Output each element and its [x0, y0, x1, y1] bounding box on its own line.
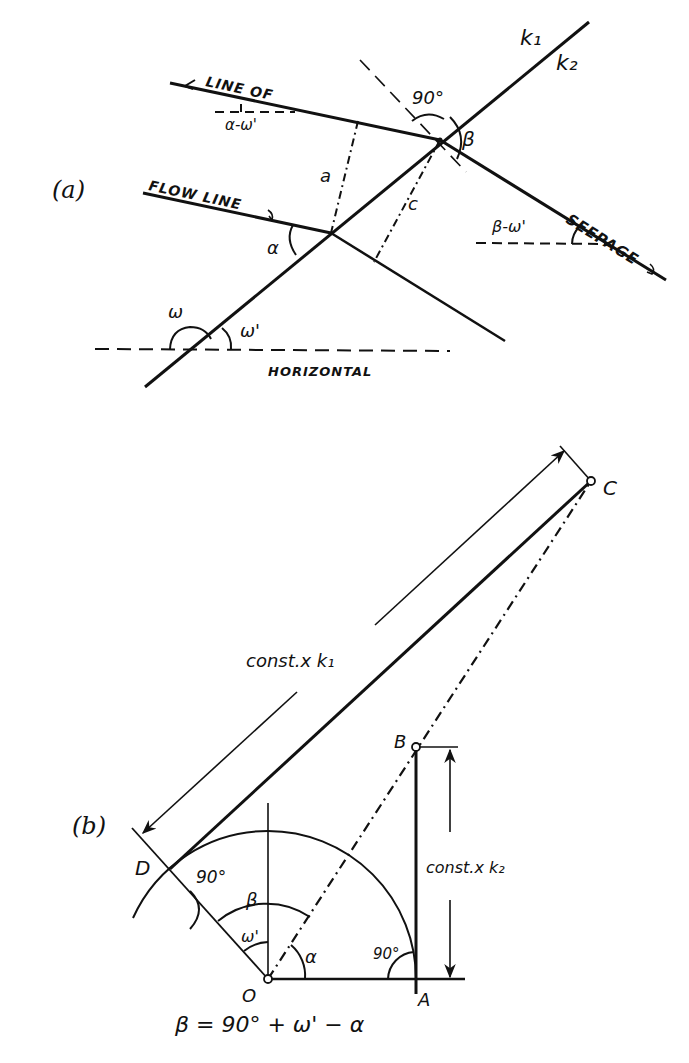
omega-label: ω — [168, 301, 183, 322]
panel-b-label: (b) — [72, 812, 106, 840]
distance-c-line — [374, 140, 440, 262]
horizontal-line — [95, 349, 450, 351]
refracted-line-lower — [331, 233, 505, 341]
refraction-diagram: (a) HORIZONTAL k₁ k₂ LINE OF α-ω' FLOW L… — [0, 0, 689, 1063]
angle-arc-omega-prime — [222, 328, 231, 349]
k2-label: k₂ — [556, 50, 578, 75]
alpha-label: α — [267, 237, 279, 258]
angle-90-label: 90° — [412, 87, 444, 108]
flow-line-label: FLOW LINE — [147, 177, 243, 212]
angle-arc-90 — [412, 114, 444, 121]
angle-arc-beta — [218, 904, 310, 921]
panel-a: (a) HORIZONTAL k₁ k₂ LINE OF α-ω' FLOW L… — [52, 22, 666, 387]
a-label: a — [320, 165, 331, 186]
angle-arc-beta — [450, 117, 461, 159]
alpha-minus-omega-label: α-ω' — [225, 116, 257, 134]
angle-90-A-label: 90° — [373, 945, 400, 963]
angle-arc-alpha — [291, 945, 305, 979]
dimension-arrow-k1-down — [143, 692, 297, 833]
beta-minus-omega-label: β-ω' — [491, 217, 526, 236]
angle-arc-alpha — [290, 225, 296, 255]
label-O: O — [242, 985, 256, 1006]
dimension-arrow-k1-up — [375, 451, 564, 625]
c-label: c — [408, 193, 418, 214]
omega-prime-label: ω' — [240, 320, 260, 341]
seepage-label: SEEPAGE — [563, 210, 642, 269]
label-C: C — [603, 476, 617, 500]
beta-formula: β = 90° + ω' − α — [174, 1012, 365, 1037]
panel-b: (b) const.x k₂ const.x k₁ 90° β ω' — [72, 446, 617, 1037]
beta-label: β — [461, 127, 475, 151]
alpha-label-b: α — [305, 946, 317, 967]
line-of-flow-upper — [170, 83, 440, 140]
panel-a-label: (a) — [52, 176, 85, 204]
label-D: D — [135, 856, 150, 880]
ref-horizontal-seepage — [476, 243, 608, 244]
resultant-OC — [268, 481, 591, 979]
point-B — [412, 743, 420, 751]
const-k2-label: const.x k₂ — [426, 858, 505, 877]
horizontal-label: HORIZONTAL — [268, 364, 372, 379]
const-k1-label: const.x k₁ — [246, 650, 335, 671]
angle-arc-90-D — [190, 891, 199, 929]
junction-point — [438, 138, 443, 143]
beta-label-b: β — [245, 889, 258, 910]
k1-label: k₁ — [520, 25, 542, 50]
omega-prime-label-b: ω' — [241, 927, 259, 946]
label-B: B — [394, 731, 406, 752]
label-A: A — [417, 989, 430, 1010]
point-C — [587, 477, 595, 485]
vector-DC — [170, 481, 591, 869]
point-O — [264, 975, 272, 983]
angle-90-D-label: 90° — [196, 867, 226, 887]
normal-line — [360, 60, 466, 172]
dimension-tick-C — [560, 446, 591, 481]
